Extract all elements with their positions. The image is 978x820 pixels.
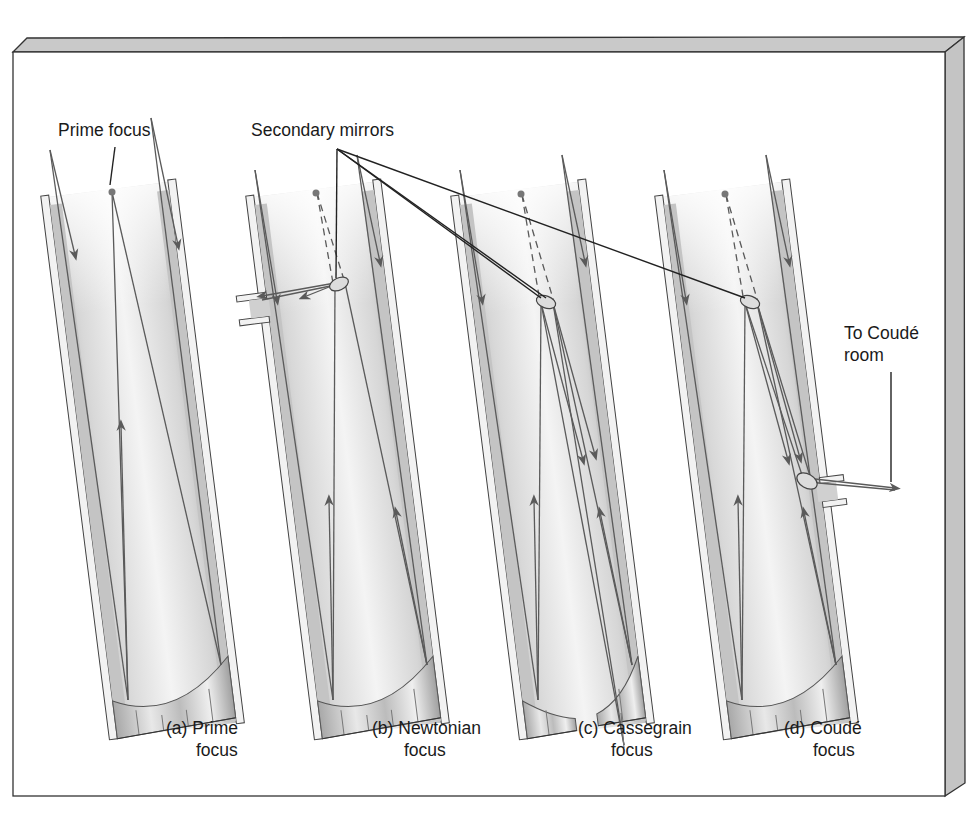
caption-c: (c) Cassegrain focus — [578, 717, 692, 761]
to-coude-room-label: To Coudé room — [844, 322, 919, 366]
caption-b-line1: (b) Newtonian — [372, 717, 481, 739]
telescope-focus-diagram: Prime focus Secondary mirrors To Coudé r… — [0, 0, 978, 820]
frame-right-bevel — [945, 37, 965, 796]
cassegrain-virtual-focus — [518, 191, 525, 198]
prime-focus-label: Prime focus — [58, 120, 150, 141]
caption-a-line2: focus — [166, 739, 238, 761]
caption-c-line1: (c) Cassegrain — [578, 717, 692, 739]
prime-focus-point — [109, 189, 116, 196]
caption-b-line2: focus — [372, 739, 481, 761]
caption-a-line1: (a) Prime — [166, 717, 238, 739]
caption-d-line1: (d) Coudé — [784, 717, 862, 739]
caption-a: (a) Prime focus — [166, 717, 238, 761]
secondary-mirrors-label: Secondary mirrors — [251, 120, 394, 141]
frame-top-bevel — [13, 37, 964, 52]
newtonian-virtual-focus — [313, 190, 320, 197]
caption-c-line2: focus — [578, 739, 692, 761]
to-coude-room-line1: To Coudé — [844, 322, 919, 344]
caption-b: (b) Newtonian focus — [372, 717, 481, 761]
to-coude-room-line2: room — [844, 344, 919, 366]
secondary-leader-b — [336, 149, 337, 278]
coude-virtual-focus — [722, 191, 729, 198]
caption-d: (d) Coudé focus — [784, 717, 862, 761]
caption-d-line2: focus — [784, 739, 862, 761]
